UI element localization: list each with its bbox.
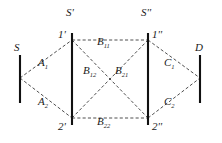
edge-label-B22: B22: [97, 115, 111, 129]
node-label-2prime: 2': [58, 120, 67, 132]
edge-label-C1: C1: [164, 56, 175, 70]
node-label-1doubleprime: 1'': [152, 28, 163, 40]
edge-A1: [20, 40, 72, 78]
terminal-label-source: S: [14, 41, 20, 53]
node-label-1prime: 1': [58, 28, 67, 40]
stage-label-s-prime: S': [66, 6, 75, 18]
edge-label-B21: B21: [115, 64, 128, 78]
edge-C1: [148, 40, 200, 78]
edge-label-B12: B12: [83, 64, 97, 78]
terminal-label-destination: D: [194, 41, 203, 53]
diagram-canvas: S' S'' S D 1' 2' 1'' 2'' A1 A2: [0, 0, 222, 143]
edge-label-A2: A2: [37, 95, 49, 109]
edge-label-C2: C2: [164, 95, 175, 109]
node-label-2doubleprime: 2'': [152, 120, 163, 132]
network-diagram: S' S'' S D 1' 2' 1'' 2'' A1 A2: [0, 0, 222, 143]
edge-label-B11: B11: [97, 35, 110, 49]
stage-label-s-doubleprime: S'': [141, 6, 152, 18]
edge-label-A1: A1: [37, 56, 48, 70]
edge-C2: [148, 78, 200, 118]
edge-A2: [20, 78, 72, 118]
